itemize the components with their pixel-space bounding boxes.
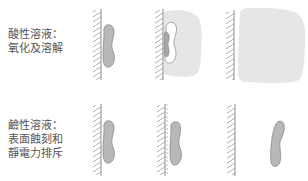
alkaline-stage-2 bbox=[157, 104, 181, 176]
particle-icon bbox=[271, 121, 285, 166]
wall-icon bbox=[227, 104, 235, 176]
wall-icon bbox=[93, 104, 101, 176]
wall-icon bbox=[93, 9, 101, 80]
particle-icon bbox=[103, 121, 114, 163]
alkaline-stage-3 bbox=[227, 104, 284, 176]
particle-icon bbox=[103, 25, 114, 67]
acidic-stage-3 bbox=[226, 8, 305, 83]
particle-icon bbox=[170, 122, 181, 165]
wall-icon bbox=[155, 9, 163, 80]
wall-icon bbox=[157, 104, 167, 176]
acidic-stage-1 bbox=[93, 9, 114, 80]
dissolution-cloud-icon bbox=[238, 8, 305, 83]
alkaline-stage-1 bbox=[93, 104, 114, 176]
process-diagram bbox=[0, 0, 308, 181]
acidic-stage-2 bbox=[155, 9, 202, 80]
wall-icon bbox=[226, 10, 234, 80]
